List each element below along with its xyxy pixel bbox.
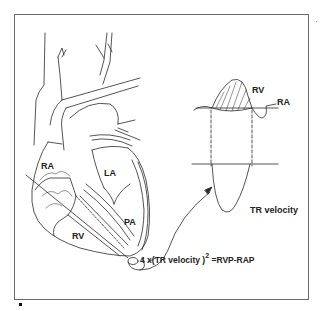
formula-exponent: 2 <box>205 252 209 259</box>
label-la: LA <box>104 169 116 178</box>
formula-text: 4 x(TR velocity )2 =RVP-RAP <box>140 253 255 265</box>
trace-label-ra: RA <box>277 98 290 107</box>
pressure-trace <box>194 79 278 166</box>
panel-marker <box>19 303 22 306</box>
tr-velocity-label: TR velocity <box>250 206 298 215</box>
formula-prefix: 4 x(TR velocity ) <box>140 255 205 265</box>
label-rv: RV <box>72 232 84 241</box>
heart-outline-illustration <box>26 142 150 258</box>
great-vessels-illustration <box>34 33 140 150</box>
trace-label-rv: RV <box>252 86 264 95</box>
formula-suffix: =RVP-RAP <box>209 255 254 265</box>
scan-artifact <box>316 21 317 22</box>
label-ra: RA <box>41 162 54 171</box>
label-pa: PA <box>124 218 136 227</box>
